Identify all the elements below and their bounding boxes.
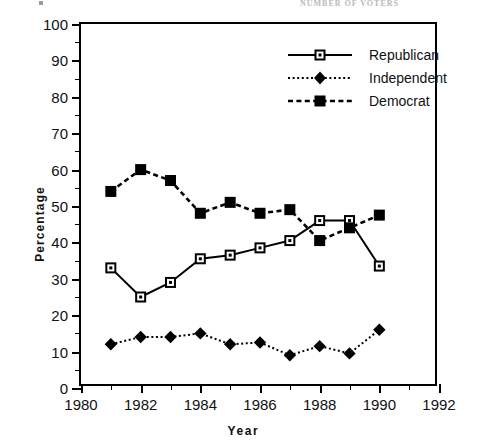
data-point-marker — [225, 197, 236, 208]
data-point-marker — [224, 338, 236, 350]
data-point-marker — [375, 262, 384, 271]
y-tick-major — [72, 170, 81, 172]
legend-label-democrat: Democrat — [369, 94, 430, 108]
data-point-marker — [105, 338, 117, 350]
legend-label-independent: Independent — [369, 71, 447, 85]
legend-item-democrat: Democrat — [288, 89, 447, 112]
x-tick-label: 1980 — [64, 397, 97, 412]
scan-page-header: NUMBER OF VOTERS — [300, 0, 450, 8]
data-point-marker — [255, 208, 266, 219]
y-tick-label: 60 — [51, 162, 68, 177]
data-point-marker — [164, 331, 176, 343]
y-tick-label: 100 — [43, 17, 68, 32]
x-tick-major — [439, 384, 441, 393]
series-democrat — [105, 164, 385, 246]
data-point-marker — [284, 349, 296, 361]
y-tick-label: 90 — [51, 53, 68, 68]
legend-key-independent-icon — [288, 71, 352, 85]
y-tick-label: 20 — [51, 308, 68, 323]
legend-label-republican: Republican — [369, 48, 439, 62]
y-tick-label: 40 — [51, 235, 68, 250]
data-point-marker — [373, 324, 385, 336]
data-point-marker — [136, 293, 145, 302]
x-tick-label: 1986 — [243, 397, 276, 412]
legend-item-republican: Republican — [288, 43, 447, 66]
x-tick-label: 1988 — [303, 397, 336, 412]
y-tick-major — [72, 206, 81, 208]
series-line — [111, 170, 380, 241]
data-point-marker — [374, 210, 385, 221]
y-tick-major — [72, 97, 81, 99]
y-tick-major — [72, 388, 81, 390]
data-point-marker — [195, 208, 206, 219]
x-tick-label: 1992 — [422, 397, 455, 412]
data-point-marker — [196, 254, 205, 263]
y-tick-major — [72, 24, 81, 26]
y-axis-title: Percentage — [33, 186, 47, 262]
data-point-marker — [105, 186, 116, 197]
data-point-marker — [254, 336, 266, 348]
x-tick-label: 1982 — [124, 397, 157, 412]
data-point-marker — [165, 175, 176, 186]
y-tick-major — [72, 279, 81, 281]
y-tick-label: 10 — [51, 344, 68, 359]
chart-legend: Republican Independent Democrat — [288, 43, 447, 112]
data-point-marker — [344, 222, 355, 233]
legend-key-democrat-icon — [288, 94, 352, 108]
y-tick-major — [72, 60, 81, 62]
y-tick-major — [72, 133, 81, 135]
data-point-marker — [284, 204, 295, 215]
series-line — [111, 330, 380, 355]
data-point-marker — [194, 327, 206, 339]
x-tick-label: 1984 — [184, 397, 217, 412]
y-tick-label: 30 — [51, 271, 68, 286]
scan-artifact-mark — [39, 1, 43, 5]
data-point-marker — [256, 243, 265, 252]
x-axis-title: Year — [0, 424, 487, 438]
data-point-marker — [166, 278, 175, 287]
y-tick-major — [72, 242, 81, 244]
y-tick-major — [72, 352, 81, 354]
series-republican — [106, 216, 384, 301]
y-tick-label: 0 — [60, 381, 68, 396]
data-point-marker — [343, 347, 355, 359]
data-point-marker — [226, 251, 235, 260]
legend-item-independent: Independent — [288, 66, 447, 89]
data-point-marker — [134, 331, 146, 343]
legend-key-republican-icon — [288, 48, 352, 62]
data-point-marker — [285, 236, 294, 245]
x-tick-label: 1990 — [363, 397, 396, 412]
data-point-marker — [313, 340, 325, 352]
chart-page: NUMBER OF VOTERS Percentage Year 0102030… — [0, 0, 487, 448]
data-point-marker — [315, 216, 324, 225]
data-point-marker — [135, 164, 146, 175]
series-independent — [105, 324, 386, 362]
data-point-marker — [106, 263, 115, 272]
y-tick-label: 50 — [51, 199, 68, 214]
data-point-marker — [314, 235, 325, 246]
y-tick-major — [72, 315, 81, 317]
y-tick-label: 70 — [51, 126, 68, 141]
y-tick-label: 80 — [51, 89, 68, 104]
